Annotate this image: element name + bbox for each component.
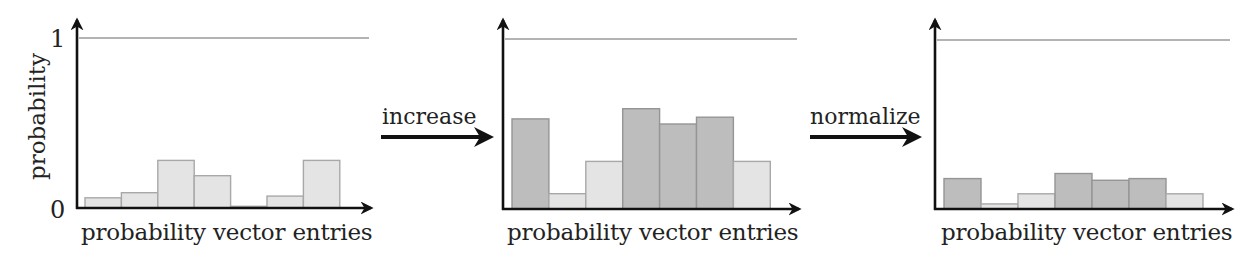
- bar-1: [512, 119, 549, 209]
- bar-6: [697, 117, 734, 209]
- bar-1: [944, 179, 981, 209]
- increase-label: increase: [382, 106, 477, 128]
- bar-2: [121, 193, 157, 208]
- y-tick-1: 1: [50, 27, 65, 51]
- x-axis-label-normalized: probability vector entries: [941, 221, 1232, 244]
- x-axis-label-increased: probability vector entries: [507, 221, 798, 244]
- bar-3: [158, 160, 194, 208]
- bar-4: [623, 109, 660, 209]
- y-tick-0: 0: [50, 198, 65, 222]
- bar-5: [660, 124, 697, 209]
- bar-4: [194, 176, 230, 208]
- bar-3: [1018, 194, 1055, 209]
- bar-4: [1055, 174, 1092, 209]
- bar-7: [733, 161, 770, 209]
- figure: probability 1 0 probability vector entri…: [0, 0, 1256, 261]
- bar-1: [85, 198, 121, 208]
- normalize-label: normalize: [810, 106, 921, 128]
- bar-5: [1092, 180, 1129, 209]
- y-axis-label: probability: [26, 53, 49, 180]
- bar-6: [267, 196, 303, 208]
- bar-2: [549, 194, 586, 209]
- bar-7: [1166, 194, 1203, 209]
- bar-3: [586, 161, 623, 209]
- bar-7: [303, 160, 339, 208]
- x-axis-label-original: probability vector entries: [81, 221, 372, 244]
- bar-6: [1129, 179, 1166, 209]
